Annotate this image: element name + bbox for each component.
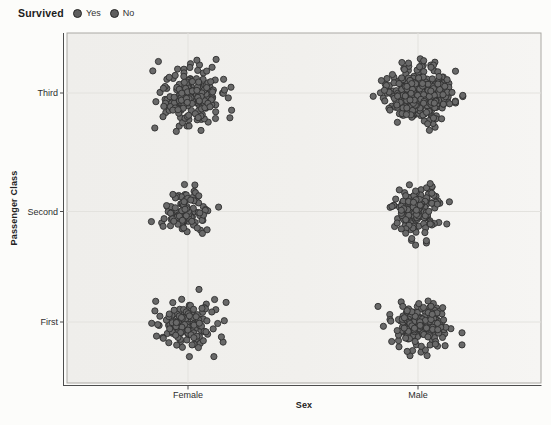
data-point xyxy=(229,107,235,113)
panel-background xyxy=(67,33,541,383)
data-point xyxy=(150,68,156,74)
data-point xyxy=(167,326,173,332)
data-point xyxy=(184,337,190,343)
data-point xyxy=(426,127,432,133)
ytick-first: First xyxy=(0,317,58,327)
data-point xyxy=(186,313,192,319)
data-point xyxy=(204,318,210,324)
data-point xyxy=(401,66,407,72)
data-point xyxy=(378,78,384,84)
data-point xyxy=(171,218,177,224)
x-axis-title: Sex xyxy=(244,400,364,410)
data-point xyxy=(410,199,416,205)
data-point xyxy=(213,109,219,115)
data-point xyxy=(157,313,163,319)
data-point xyxy=(223,299,229,305)
data-point xyxy=(396,187,402,193)
data-point xyxy=(398,226,404,232)
data-point xyxy=(413,207,419,213)
data-point xyxy=(401,315,407,321)
data-point xyxy=(402,93,408,99)
data-point xyxy=(195,67,201,73)
data-point xyxy=(388,318,394,324)
data-point xyxy=(225,95,231,101)
data-point xyxy=(394,220,400,226)
data-point xyxy=(429,311,435,317)
data-point xyxy=(173,128,179,134)
data-point xyxy=(435,81,441,87)
data-point xyxy=(148,219,154,225)
data-point xyxy=(436,73,442,79)
data-point xyxy=(394,119,400,125)
data-point xyxy=(395,93,401,99)
data-point xyxy=(428,303,434,309)
data-point xyxy=(389,338,395,344)
data-point xyxy=(421,100,427,106)
data-point xyxy=(161,103,167,109)
data-point xyxy=(406,182,412,188)
ytick-third: Third xyxy=(0,88,58,98)
data-point xyxy=(188,197,194,203)
data-point xyxy=(181,199,187,205)
data-point xyxy=(179,217,185,223)
data-point xyxy=(452,68,458,74)
data-point xyxy=(204,85,210,91)
data-point xyxy=(170,191,176,197)
data-point xyxy=(191,306,197,312)
data-point xyxy=(423,325,429,331)
data-point xyxy=(387,107,393,113)
data-point xyxy=(215,320,221,326)
data-point xyxy=(422,230,428,236)
data-point xyxy=(153,298,159,304)
data-point xyxy=(178,314,184,320)
data-point xyxy=(370,93,376,99)
data-point xyxy=(175,107,181,113)
data-point xyxy=(172,72,178,78)
data-point xyxy=(423,238,429,244)
data-point xyxy=(411,325,417,331)
data-point xyxy=(153,99,159,105)
data-point xyxy=(179,344,185,350)
data-point xyxy=(431,100,437,106)
data-point xyxy=(228,84,234,90)
data-point xyxy=(209,309,215,315)
data-point xyxy=(196,193,202,199)
data-point xyxy=(404,105,410,111)
data-point xyxy=(166,340,172,346)
chart-figure: Survived Yes No Third Second First Femal… xyxy=(0,0,551,425)
data-point xyxy=(196,320,202,326)
data-point xyxy=(210,89,216,95)
data-point xyxy=(209,64,215,70)
data-point xyxy=(412,338,418,344)
data-point xyxy=(426,208,432,214)
data-point xyxy=(194,57,200,63)
data-point xyxy=(429,76,435,82)
data-point xyxy=(194,87,200,93)
data-point xyxy=(404,308,410,314)
data-point xyxy=(427,181,433,187)
data-point xyxy=(179,90,185,96)
data-point xyxy=(160,223,166,229)
data-point xyxy=(227,115,233,121)
data-point xyxy=(418,343,424,349)
data-point xyxy=(155,58,161,64)
data-point xyxy=(212,115,218,121)
data-point xyxy=(440,92,446,98)
data-point xyxy=(208,79,214,85)
data-point xyxy=(382,98,388,104)
data-point xyxy=(423,109,429,115)
data-point xyxy=(166,74,172,80)
data-point xyxy=(427,221,433,227)
data-point xyxy=(413,188,419,194)
data-point xyxy=(403,335,409,341)
data-point xyxy=(409,235,415,241)
data-point xyxy=(439,116,445,122)
data-point xyxy=(218,334,224,340)
data-point xyxy=(442,83,448,89)
data-point xyxy=(181,225,187,231)
data-point xyxy=(396,81,402,87)
data-point xyxy=(430,115,436,121)
data-point xyxy=(152,125,158,131)
data-point xyxy=(459,342,465,348)
data-point xyxy=(186,112,192,118)
